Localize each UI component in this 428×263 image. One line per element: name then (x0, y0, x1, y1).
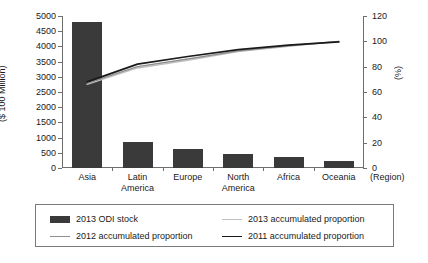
left-tick-label: 4000 (16, 42, 56, 51)
legend-entry: 2011 accumulated proportion (222, 231, 364, 241)
legend-line-swatch (50, 236, 70, 237)
left-tick-label: 0 (16, 164, 56, 173)
left-tick-label: 1500 (16, 118, 56, 127)
line-series (87, 41, 339, 83)
right-tick-label: 100 (372, 37, 387, 46)
legend-label: 2012 accumulated proportion (76, 231, 193, 241)
legend-line-swatch (222, 219, 242, 220)
legend-label: 2013 accumulated proportion (248, 214, 365, 224)
left-tick-label: 3000 (16, 72, 56, 81)
right-tick-label: 40 (372, 113, 382, 122)
plot-area: 0500100015002000250030003500400045005000… (62, 16, 364, 168)
right-tick-label: 80 (372, 62, 382, 71)
left-axis-title: ($ 100 Million) (0, 65, 7, 122)
line-series-group (62, 16, 364, 168)
left-tick-label: 5000 (16, 12, 56, 21)
left-tick-label: 2500 (16, 88, 56, 97)
legend-line-swatch (222, 236, 242, 237)
right-axis-title: (%) (394, 66, 403, 80)
legend-entry: 2013 ODI stock (50, 214, 138, 224)
left-tick-label: 4500 (16, 27, 56, 36)
left-tick-label: 1000 (16, 133, 56, 142)
left-tick-label: 3500 (16, 57, 56, 66)
left-tick (58, 168, 62, 169)
left-tick-label: 2000 (16, 103, 56, 112)
legend-bar-swatch (50, 216, 70, 223)
category-label: Oceania (303, 172, 375, 183)
right-tick (363, 168, 367, 169)
legend-entry: 2013 accumulated proportion (222, 214, 365, 224)
x-axis-title: (Region) (370, 172, 405, 183)
line-series (87, 41, 339, 84)
legend-label: 2013 ODI stock (76, 214, 138, 224)
chart-figure: 0500100015002000250030003500400045005000… (0, 0, 428, 263)
right-tick-label: 120 (372, 12, 387, 21)
chart-legend: 2013 ODI stock2013 accumulated proportio… (35, 204, 394, 247)
legend-label: 2011 accumulated proportion (248, 231, 364, 241)
line-series (87, 42, 339, 82)
right-tick-label: 60 (372, 88, 382, 97)
right-tick-label: 20 (372, 138, 382, 147)
legend-entry: 2012 accumulated proportion (50, 231, 193, 241)
left-tick-label: 500 (16, 148, 56, 157)
